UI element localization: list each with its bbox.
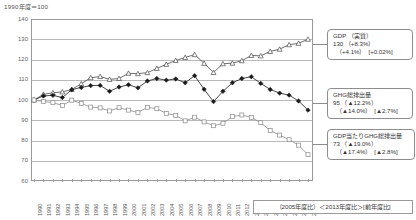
data-point <box>41 100 45 104</box>
data-point <box>145 105 149 109</box>
data-point <box>193 115 197 119</box>
gdp-callout-value: 130 （+8.3%） <box>333 40 408 48</box>
series-2 <box>32 98 310 157</box>
ghg-callout-title: GHG総排出量 <box>333 91 408 99</box>
data-point <box>174 113 178 117</box>
gdp-per-ghg-callout-value: 73 （▲19.0%） <box>333 140 410 148</box>
data-point <box>306 37 311 41</box>
data-point <box>278 133 282 137</box>
data-point <box>202 120 206 124</box>
data-point <box>277 47 282 51</box>
data-point <box>88 83 92 87</box>
data-point <box>239 58 244 62</box>
data-point <box>79 101 83 105</box>
gdp-callout-detail: （+4.1%） [+0.02%] <box>333 48 408 56</box>
data-point <box>268 129 272 133</box>
gdp-callout-title: GDP （実質） <box>333 32 408 40</box>
data-point <box>221 121 225 125</box>
series-line-2 <box>34 100 308 155</box>
data-point <box>240 76 244 80</box>
data-point <box>117 106 121 110</box>
gdp-per-ghg-leader-line <box>313 144 327 145</box>
data-point <box>249 115 253 119</box>
data-point <box>183 119 187 123</box>
gdp-per-ghg-callout-title: GDP当たりGHG総排出量 <box>333 132 410 140</box>
data-point <box>126 108 130 112</box>
data-point <box>51 101 55 105</box>
ghg-callout-value: 95 （▲12.2%） <box>333 99 408 107</box>
data-point <box>268 87 272 91</box>
data-point <box>287 93 291 97</box>
data-point <box>287 138 291 142</box>
data-point <box>89 105 93 109</box>
data-point <box>155 107 159 111</box>
data-point <box>164 111 168 115</box>
ghg-callout: GHG総排出量 95 （▲12.2%） （▲14.0%） [▲2.7%] <box>327 88 413 119</box>
gdp-per-ghg-callout-detail: （▲17.4%） [▲2.8%] <box>333 148 410 156</box>
data-point <box>154 66 159 70</box>
gdp-per-ghg-callout: GDP当たりGHG総排出量 73 （▲19.0%） （▲17.4%） [▲2.8… <box>327 129 415 160</box>
data-point <box>70 98 74 102</box>
series-line-0 <box>34 39 308 100</box>
data-point <box>230 115 234 119</box>
data-point <box>108 109 112 113</box>
data-point <box>240 113 244 117</box>
data-point <box>306 153 310 157</box>
data-point <box>117 85 121 89</box>
data-point <box>107 89 111 93</box>
gdp-callout: GDP （実質） 130 （+8.3%） （+4.1%） [+0.02%] <box>327 29 413 60</box>
data-point <box>98 83 102 87</box>
data-point <box>164 78 168 82</box>
data-point <box>212 124 216 128</box>
gdp-leader-line <box>313 44 327 45</box>
data-point <box>32 98 36 102</box>
ghg-leader-line <box>313 103 327 104</box>
data-point <box>126 83 130 87</box>
data-point <box>259 121 263 125</box>
data-point <box>296 41 301 45</box>
footer-legend: （2005年度比）＜2013年度比＞[前年度比] <box>253 200 413 214</box>
data-point <box>192 52 197 56</box>
series-line-1 <box>34 76 308 110</box>
data-point <box>277 91 281 95</box>
series-0 <box>32 37 311 102</box>
chart-root: 1990年度＝100 60708090100110120130140 19901… <box>0 0 416 220</box>
data-point <box>155 76 159 80</box>
data-point <box>174 77 178 81</box>
series-1 <box>32 74 310 113</box>
data-point <box>297 143 301 147</box>
data-point <box>60 103 64 107</box>
ghg-callout-detail: （▲14.0%） [▲2.7%] <box>333 107 408 115</box>
data-point <box>98 106 102 110</box>
data-point <box>164 62 169 66</box>
data-point <box>136 111 140 115</box>
